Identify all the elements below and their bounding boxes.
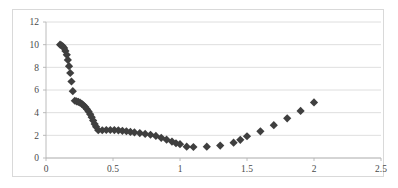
y-axis-tick-label: 2 [34,131,39,141]
x-axis-tick-labels: 00.511.522.5 [44,164,388,174]
chart-container: 024681012 00.511.522.5 [0,0,398,188]
data-point-marker [310,98,318,106]
data-point-marker [216,141,224,149]
data-point-marker [189,143,197,151]
data-point-marker [203,143,211,151]
y-axis-tick-label: 10 [30,40,40,50]
data-point-marker [256,127,264,135]
data-point-marker [66,69,74,77]
y-axis-tick-label: 8 [34,63,39,73]
gridlines-group [46,22,381,158]
x-axis-tick-label: 1.5 [241,164,253,174]
x-axis-tick-label: 2.5 [375,164,387,174]
axes-group [43,22,381,161]
x-axis-tick-label: 0.5 [107,164,119,174]
data-point-marker [65,62,73,70]
y-axis-tick-label: 6 [34,85,39,95]
data-point-marker [69,87,77,95]
data-point-marker [297,107,305,115]
data-point-marker [283,114,291,122]
data-point-marker [243,132,251,140]
data-point-marker [183,143,191,151]
y-axis-tick-labels: 024681012 [30,17,40,163]
y-axis-tick-label: 12 [30,17,40,27]
x-axis-tick-label: 2 [312,164,317,174]
x-axis-tick-label: 0 [44,164,49,174]
x-axis-tick-label: 1 [178,164,183,174]
y-axis-tick-label: 4 [34,108,39,118]
scatter-plot: 024681012 00.511.522.5 [0,0,398,188]
data-point-marker [270,121,278,129]
data-point-marker [67,77,75,85]
y-axis-tick-label: 0 [34,153,39,163]
data-points-group [56,41,318,152]
